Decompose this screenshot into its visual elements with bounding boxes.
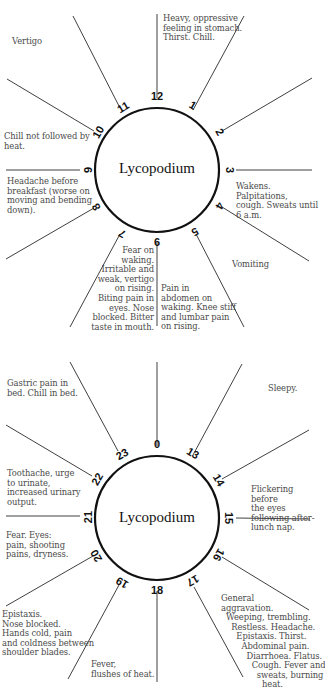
note-gastric: Gastric pain in bed. Chill in bed. — [7, 379, 78, 398]
note-chill: Chill not followed by heat. — [4, 132, 90, 151]
bottom-remedy-label: Lycopodium — [95, 509, 219, 526]
note-wakens: Wakens. Palpitations, cough. Sweats unti… — [236, 182, 320, 220]
hour-0: 0 — [147, 437, 167, 451]
spoke-2 — [222, 78, 312, 131]
spoke-8 — [6, 208, 94, 259]
spoke-14 — [222, 430, 309, 479]
hour-15: 15 — [222, 508, 236, 528]
spoke-20 — [6, 556, 93, 606]
top-remedy-label: Lycopodium — [95, 160, 219, 177]
note-heavy: Heavy, oppressive feeling in stomach. Th… — [163, 14, 242, 43]
note-fear-eyes: Fear. Eyes: pain, shooting pains, drynes… — [6, 531, 68, 560]
hour-12: 12 — [147, 89, 167, 103]
note-sleepy: Sleepy. — [268, 384, 297, 394]
note-general: General aggravation. Weeping, trembling.… — [221, 594, 325, 690]
note-vertigo: Vertigo — [12, 37, 42, 47]
note-vomiting: Vomiting — [232, 260, 269, 270]
note-fear-waking: Fear on waking. Irritable and weak, vert… — [88, 246, 154, 332]
note-toothache: Toothache, urge to urinate, increased ur… — [7, 469, 81, 507]
note-flickering: Flickering before the eyes following aft… — [251, 485, 320, 533]
hour-3: 3 — [223, 160, 237, 180]
hour-21: 21 — [81, 507, 95, 527]
spoke-11 — [73, 16, 120, 108]
spoke-13 — [193, 364, 242, 455]
hour-18: 18 — [147, 583, 167, 597]
note-epistaxis: Epistaxis. Nose blocked. Hands cold, pai… — [2, 610, 94, 658]
note-fever: Fever, flushes of heat. — [91, 660, 154, 679]
note-headache: Headache before breakfast (worse on movi… — [7, 177, 92, 215]
spoke-23 — [70, 362, 118, 451]
spoke-10 — [7, 79, 94, 131]
note-pain-abdomen: Pain in abdomen on waking. Knee stiff an… — [161, 284, 236, 332]
